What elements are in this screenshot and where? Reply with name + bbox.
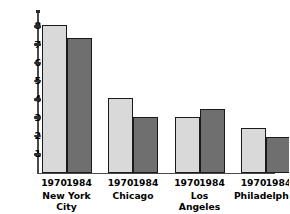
- bar-new-york-1984: [67, 38, 92, 172]
- bar-philadelphia-1984: [266, 137, 289, 173]
- x-group-label-philadelphia: Philadelphia: [231, 191, 289, 202]
- x-year-label-new-york-1984: 1984: [64, 177, 94, 188]
- x-year-label-chicago-1984: 1984: [131, 177, 161, 188]
- bar-los-1984: [200, 109, 225, 173]
- bar-los-1970: [175, 117, 200, 173]
- x-group-label-chicago: Chicago: [98, 191, 168, 202]
- bar-chicago-1970: [108, 98, 133, 172]
- bar-chicago-1984: [133, 117, 158, 173]
- bar-philadelphia-1970: [241, 128, 266, 173]
- x-group-label-new-york: New YorkCity: [32, 191, 102, 212]
- x-year-label-los-1984: 1984: [197, 177, 227, 188]
- bar-chart-figure: Millions of people 87654321 19701984New …: [0, 0, 289, 214]
- plot-area: 87654321 19701984New YorkCity19701984Chi…: [0, 0, 289, 214]
- x-group-label-los: LosAngeles: [165, 191, 235, 212]
- bars-layer: [0, 0, 289, 173]
- bar-new-york-1970: [42, 25, 67, 172]
- x-year-label-philadelphia-1984: 1984: [264, 177, 290, 188]
